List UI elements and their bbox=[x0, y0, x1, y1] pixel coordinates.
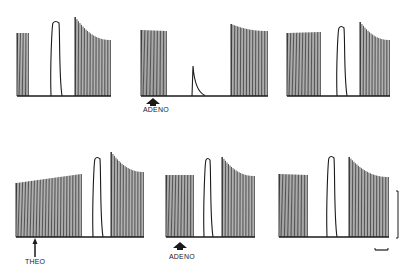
contracture-trace bbox=[337, 27, 347, 97]
twitch-line bbox=[22, 33, 23, 96]
twitch-line bbox=[168, 175, 169, 237]
twitch-line bbox=[42, 179, 43, 237]
label-adeno-top: ADENO bbox=[143, 106, 169, 113]
twitch-line bbox=[21, 182, 22, 237]
twitch-line bbox=[175, 175, 176, 237]
twitch-line bbox=[295, 33, 296, 96]
twitch-line bbox=[38, 180, 39, 237]
twitch-line bbox=[141, 30, 142, 96]
twitch-line bbox=[150, 30, 151, 96]
twitch-line bbox=[19, 183, 20, 237]
twitch-line bbox=[24, 182, 25, 237]
contraction-recordings-figure: ADENO THEO ADENO bbox=[0, 0, 412, 275]
spike-trace bbox=[192, 66, 205, 96]
twitch-line bbox=[178, 175, 179, 237]
twitch-line bbox=[298, 33, 299, 96]
twitch-line bbox=[290, 33, 291, 96]
twitch-line bbox=[32, 181, 33, 237]
twitch-line bbox=[291, 174, 292, 237]
twitch-line bbox=[16, 183, 17, 237]
twitch-line bbox=[282, 174, 283, 237]
twitch-line bbox=[25, 182, 26, 237]
twitch-line bbox=[146, 30, 147, 96]
twitch-line bbox=[174, 175, 175, 237]
twitch-line bbox=[35, 180, 36, 237]
twitch-line bbox=[18, 183, 19, 237]
twitch-line bbox=[17, 33, 18, 96]
twitch-line bbox=[177, 175, 178, 237]
twitch-line bbox=[45, 179, 46, 237]
twitch-line bbox=[169, 175, 170, 237]
theo-arrow-icon bbox=[33, 238, 38, 244]
twitch-line bbox=[166, 175, 167, 237]
twitch-line bbox=[284, 174, 285, 237]
trace-canvas bbox=[0, 0, 412, 275]
twitch-line bbox=[30, 181, 31, 237]
twitch-line bbox=[299, 33, 300, 96]
label-adeno-bottom: ADENO bbox=[169, 253, 195, 260]
twitch-line bbox=[172, 175, 173, 237]
twitch-line bbox=[19, 33, 20, 96]
twitch-line bbox=[171, 175, 172, 237]
twitch-line bbox=[144, 30, 145, 96]
contracture-trace bbox=[204, 159, 213, 238]
contracture-trace bbox=[327, 157, 337, 238]
twitch-line bbox=[296, 33, 297, 96]
twitch-line bbox=[289, 33, 290, 96]
twitch-line bbox=[21, 33, 22, 96]
twitch-line bbox=[22, 182, 23, 237]
twitch-line bbox=[143, 30, 144, 96]
twitch-line bbox=[287, 174, 288, 237]
contracture-trace bbox=[93, 158, 103, 238]
twitch-line bbox=[290, 174, 291, 237]
twitch-line bbox=[152, 30, 153, 96]
twitch-line bbox=[288, 174, 289, 237]
twitch-line bbox=[33, 181, 34, 237]
twitch-line bbox=[41, 180, 42, 237]
twitch-line bbox=[44, 179, 45, 237]
twitch-line bbox=[36, 180, 37, 237]
twitch-line bbox=[281, 174, 282, 237]
twitch-line bbox=[293, 33, 294, 96]
twitch-line bbox=[39, 180, 40, 237]
adeno-arrow-icon bbox=[146, 98, 160, 106]
twitch-line bbox=[28, 181, 29, 237]
twitch-line bbox=[149, 30, 150, 96]
twitch-line bbox=[147, 30, 148, 96]
label-theo: THEO bbox=[25, 258, 45, 265]
twitch-line bbox=[285, 174, 286, 237]
twitch-line bbox=[301, 33, 302, 96]
adeno-arrow-icon bbox=[173, 242, 187, 250]
twitch-line bbox=[27, 182, 28, 237]
twitch-line bbox=[292, 33, 293, 96]
twitch-line bbox=[287, 33, 288, 96]
twitch-line bbox=[279, 174, 280, 237]
contracture-trace bbox=[51, 22, 62, 97]
